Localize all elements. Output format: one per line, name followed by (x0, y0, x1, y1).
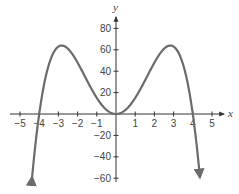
x-tick-label: 2 (152, 118, 158, 129)
y-axis-ticks: −60−40−2020406080 (94, 23, 118, 184)
y-tick-label: −20 (94, 130, 111, 141)
y-tick-label: 40 (100, 66, 112, 77)
x-axis-label: x (227, 107, 233, 119)
x-tick-label: −3 (53, 118, 65, 129)
polynomial-graph: −5−4−3−2−112345 −60−40−2020406080 x y (0, 0, 239, 194)
x-tick-label: 5 (209, 118, 215, 129)
y-tick-label: −60 (94, 173, 111, 184)
y-tick-label: 60 (100, 44, 112, 55)
x-tick-label: 1 (132, 118, 138, 129)
x-tick-label: 3 (171, 118, 177, 129)
y-tick-label: −40 (94, 151, 111, 162)
y-tick-label: 80 (100, 23, 112, 34)
x-tick-label: −5 (14, 118, 26, 129)
x-tick-label: −2 (72, 118, 84, 129)
y-axis-label: y (112, 1, 118, 13)
y-tick-label: 20 (100, 87, 112, 98)
x-tick-label: −1 (91, 118, 103, 129)
